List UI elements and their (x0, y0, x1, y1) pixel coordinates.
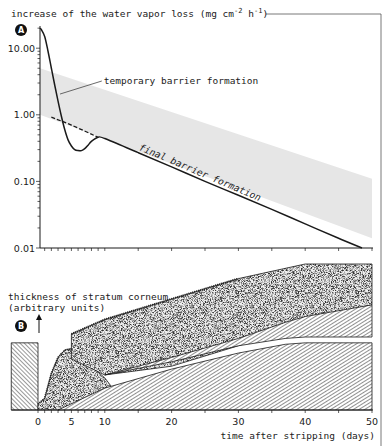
panel-a-badge: A (15, 24, 27, 36)
x-tick-label-b: 5 (68, 416, 74, 427)
temporary-annotation: temporary barrier formation (104, 75, 258, 86)
x-tick-label-b: 20 (166, 416, 178, 427)
x-tick-label-b: 30 (232, 416, 244, 427)
y-tick-label-a: 10.00 (8, 43, 35, 54)
x-tick-label-b: 10 (99, 416, 111, 427)
svg-text:A: A (18, 26, 25, 35)
panel-a-plot: 10.001.000.100.01temporary barrier forma… (8, 26, 373, 254)
svg-text:B: B (18, 322, 24, 331)
y-tick-label-a: 0.01 (14, 243, 35, 254)
figure: increase of the water vapor loss (mg cm-… (0, 0, 389, 446)
panel-b-y-title: thickness of stratum corneum (8, 291, 168, 302)
x-tick-label-b: 0 (35, 416, 41, 427)
up-arrow-icon (36, 314, 42, 333)
x-tick-label-b: 50 (366, 416, 378, 427)
x-axis-title: time after stripping (days) (221, 430, 375, 441)
temporary-barrier-band (40, 68, 372, 238)
panel-b-y-unit: (arbitrary units) (8, 302, 105, 313)
original-stratum-corneum-layer (11, 343, 38, 410)
x-tick-label-b: 40 (299, 416, 311, 427)
y-tick-label-a: 0.10 (14, 176, 35, 187)
panel-b-plot: 051020304050 (11, 264, 378, 427)
panel-b-badge: B (15, 320, 27, 332)
panel-a-y-title: increase of the water vapor loss (mg cm-… (11, 7, 268, 19)
y-tick-label-a: 1.00 (14, 109, 35, 120)
